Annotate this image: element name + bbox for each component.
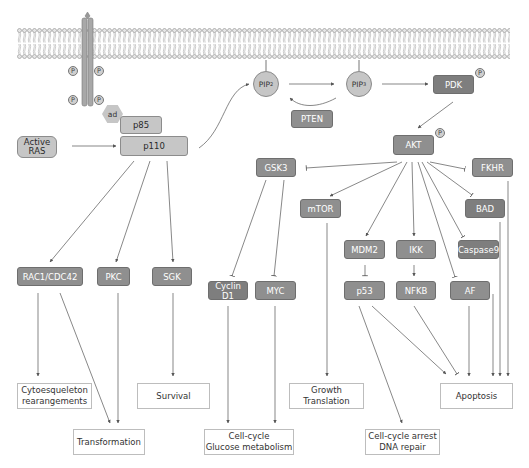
cyclin-d1-node: Cyclin D1 bbox=[208, 281, 248, 300]
mtor-node: mTOR bbox=[300, 199, 341, 218]
outcome-cytoskeleton: Cytoesqueleton rearangements bbox=[17, 383, 92, 409]
outcome-apoptosis: Apoptosis bbox=[440, 383, 513, 409]
gsk3-node: GSK3 bbox=[256, 158, 296, 177]
pathway-diagram: P P P P ad p85 p110 Active RAS PIP2 PIP3… bbox=[0, 0, 529, 468]
p53-node: p53 bbox=[344, 281, 385, 300]
phospho-site: P bbox=[94, 66, 104, 76]
nfkb-node: NFKB bbox=[396, 281, 436, 300]
pip2-node: PIP2 bbox=[253, 71, 279, 97]
outcome-cell-cycle-glucose: Cell-cycle Glucose metabolism bbox=[204, 429, 294, 455]
bad-node: BAD bbox=[465, 199, 505, 218]
outcome-survival: Survival bbox=[137, 383, 210, 409]
pip3-node: PIP3 bbox=[346, 71, 372, 97]
adaptor-label: ad bbox=[108, 110, 117, 119]
ikk-node: IKK bbox=[396, 240, 436, 259]
caspase9-node: Caspase9 bbox=[458, 240, 499, 259]
active-ras-node: Active RAS bbox=[17, 136, 57, 158]
outcome-transformation: Transformation bbox=[73, 429, 145, 455]
pip2-subscript: 2 bbox=[270, 81, 273, 87]
p110-node: p110 bbox=[120, 136, 188, 156]
pdk-node: PDK bbox=[433, 75, 474, 94]
myc-node: MYC bbox=[255, 281, 296, 300]
fkhr-node: FKHR bbox=[472, 158, 513, 177]
pkc-node: PKC bbox=[97, 267, 130, 286]
akt-node: AKT bbox=[393, 135, 434, 155]
outcome-cell-cycle-arrest: Cell-cycle arrest DNA repair bbox=[365, 429, 440, 455]
pdk-phospho: P bbox=[475, 68, 485, 78]
outcome-growth: Growth Translation bbox=[289, 383, 364, 409]
rac1-cdc42-node: RAC1/CDC42 bbox=[17, 267, 83, 286]
af-node: AF bbox=[450, 281, 490, 300]
p85-node: p85 bbox=[120, 116, 162, 134]
pip3-label: PIP bbox=[352, 80, 363, 89]
pip3-subscript: 3 bbox=[363, 81, 366, 87]
phospho-site: P bbox=[68, 95, 78, 105]
mdm2-node: MDM2 bbox=[344, 240, 385, 259]
pten-node: PTEN bbox=[291, 110, 333, 128]
sgk-node: SGK bbox=[152, 267, 192, 286]
phospho-site: P bbox=[94, 95, 104, 105]
pip2-label: PIP bbox=[259, 80, 270, 89]
akt-phospho: P bbox=[435, 128, 445, 138]
phospho-site: P bbox=[68, 66, 78, 76]
